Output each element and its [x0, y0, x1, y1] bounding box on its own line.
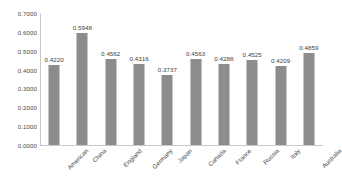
bar-slot: 0.5948 — [68, 13, 96, 145]
x-axis-tick-label: China — [91, 147, 108, 164]
x-axis-tick-label: Japan — [176, 147, 193, 164]
y-axis-tick-label: 0.3000 — [18, 85, 37, 92]
bar-canada — [190, 59, 201, 145]
x-axis-tick-label: Canada — [206, 147, 226, 167]
x-axis-line — [40, 145, 323, 146]
bar-value-label: 0.4859 — [299, 44, 318, 51]
bar-value-label: 0.4562 — [101, 50, 120, 57]
bars-layer: 0.42200.59480.45620.43160.37370.45630.42… — [40, 13, 323, 145]
y-axis-tick-label: 0.5000 — [18, 47, 37, 54]
bar-slot: 0.4288 — [210, 13, 238, 145]
x-axis-tick-label: Italy — [288, 147, 301, 160]
x-axis-tick-label: American — [66, 147, 90, 171]
bar-australia — [303, 53, 314, 145]
bar-value-label: 0.4209 — [271, 57, 290, 64]
bar-value-label: 0.4316 — [129, 55, 148, 62]
bar-value-label: 0.4563 — [186, 50, 205, 57]
y-axis-tick-label: 0.2000 — [18, 104, 37, 111]
bar-american — [49, 65, 60, 145]
bar-slot: 0.4316 — [125, 13, 153, 145]
x-axis-tick-label: France — [234, 147, 253, 166]
bar-slot: 0.4563 — [182, 13, 210, 145]
x-axis-tick-label: Russia — [262, 147, 281, 166]
x-axis-tick-label: Australia — [320, 147, 342, 169]
x-axis-tick-label: England — [122, 147, 143, 168]
bar-value-label: 0.4525 — [243, 51, 262, 58]
bar-china — [77, 33, 88, 145]
y-axis: 0.00000.10000.20000.30000.40000.50000.60… — [0, 0, 40, 190]
y-axis-tick-label: 0.4000 — [18, 66, 37, 73]
plot-area: 0.42200.59480.45620.43160.37370.45630.42… — [40, 13, 323, 146]
bar-slot: 0.3737 — [153, 13, 181, 145]
bar-value-label: 0.5948 — [73, 24, 92, 31]
bar-value-label: 0.3737 — [158, 66, 177, 73]
bar-slot: 0.4209 — [266, 13, 294, 145]
bar-germany — [134, 64, 145, 145]
bar-value-label: 0.4288 — [214, 55, 233, 62]
bar-value-label: 0.4220 — [45, 56, 64, 63]
y-axis-tick-label: 0.1000 — [18, 123, 37, 130]
bar-slot: 0.4859 — [295, 13, 323, 145]
y-axis-tick-label: 0.7000 — [18, 10, 37, 17]
y-axis-tick-label: 0.0000 — [18, 142, 37, 149]
x-axis: AmericanChinaEnglandGermanyJapanCanadaFr… — [40, 147, 323, 190]
bar-slot: 0.4562 — [97, 13, 125, 145]
bar-slot: 0.4525 — [238, 13, 266, 145]
bar-russia — [247, 60, 258, 145]
bar-england — [105, 59, 116, 145]
bar-slot: 0.4220 — [40, 13, 68, 145]
bar-japan — [162, 75, 173, 145]
bar-france — [218, 64, 229, 145]
y-axis-tick-label: 0.6000 — [18, 28, 37, 35]
x-axis-tick-label: Germany — [151, 147, 174, 170]
bar-italy — [275, 66, 286, 145]
